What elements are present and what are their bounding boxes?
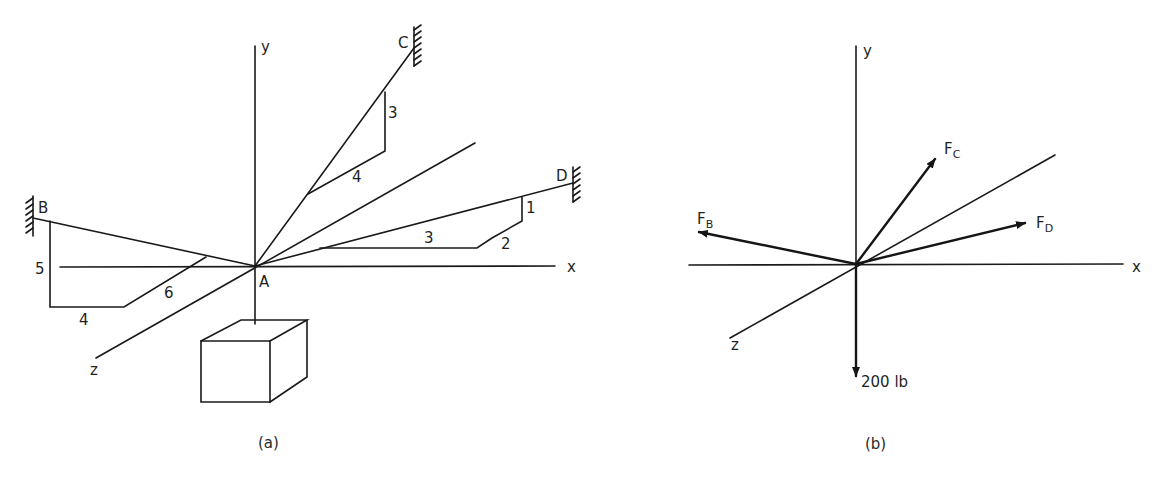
z-axis-label-a: z <box>90 361 98 379</box>
slope-ab-run: 4 <box>79 311 89 329</box>
figure-a: y x z 3 4 C 1 3 2 D 5 4 6 B A <box>26 25 580 452</box>
caption-a: (a) <box>258 434 279 452</box>
cable-ac <box>255 48 414 266</box>
point-b-label: B <box>38 199 48 217</box>
cable-ad <box>255 183 573 266</box>
slope-triangle-ab <box>50 221 206 307</box>
force-fb-arrow <box>699 232 856 264</box>
z-axis-a <box>96 143 475 358</box>
slope-ad-depth: 2 <box>501 235 511 253</box>
slope-ac-rise: 3 <box>388 104 398 122</box>
slope-ab-rise: 5 <box>35 260 45 278</box>
force-fd-label: FD <box>1036 214 1053 235</box>
hatching-b <box>26 198 33 233</box>
hatching-d <box>573 167 580 202</box>
figure-b: y x z FB FC FD 200 lb (b) <box>689 42 1141 453</box>
cable-ab <box>33 218 255 266</box>
y-axis-label-b: y <box>863 42 872 60</box>
x-axis-b <box>689 264 1123 265</box>
z-axis-label-b: z <box>731 336 739 354</box>
point-a-label: A <box>259 273 270 291</box>
x-axis-a <box>60 266 555 267</box>
x-axis-label-a: x <box>567 258 576 276</box>
force-fb-label: FB <box>697 210 713 231</box>
load-label: 200 lb <box>861 373 908 391</box>
hatching-c <box>414 25 421 66</box>
point-c-label: C <box>398 34 408 52</box>
x-axis-label-b: x <box>1132 258 1141 276</box>
point-d-label: D <box>556 167 568 185</box>
weight-box <box>201 320 307 402</box>
diagram-canvas: y x z 3 4 C 1 3 2 D 5 4 6 B A <box>0 0 1160 479</box>
z-axis-b <box>730 155 1055 338</box>
force-fc-label: FC <box>944 140 961 161</box>
slope-ac-run: 4 <box>352 168 362 186</box>
slope-ab-depth: 6 <box>164 284 174 302</box>
slope-ad-rise: 1 <box>526 199 536 217</box>
slope-ad-run: 3 <box>424 229 434 247</box>
caption-b: (b) <box>865 435 886 453</box>
y-axis-label-a: y <box>261 38 270 56</box>
